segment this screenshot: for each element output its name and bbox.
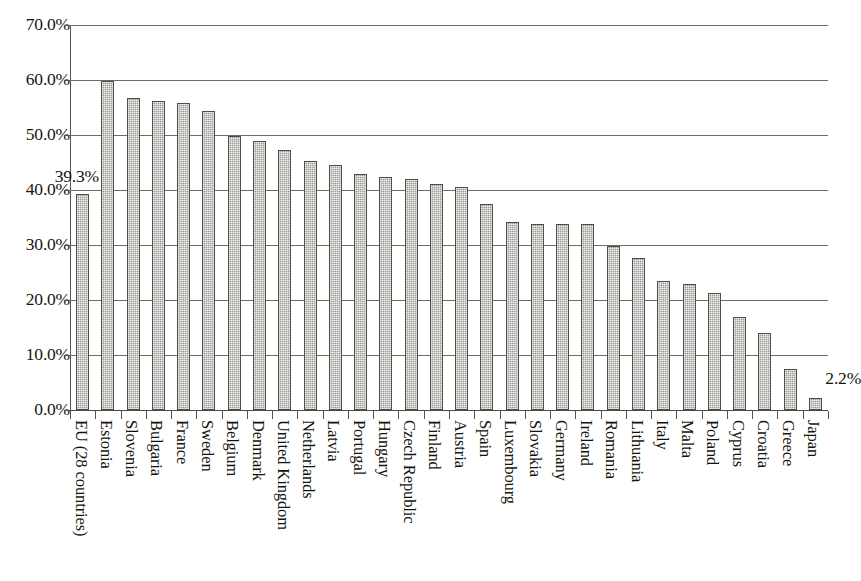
y-tick-label: 20.0% xyxy=(4,291,70,309)
bar xyxy=(202,111,215,410)
x-tick-mark xyxy=(222,411,223,419)
x-tick-mark xyxy=(828,411,829,419)
bar xyxy=(253,141,266,411)
x-axis-category-label: Estonia xyxy=(97,420,114,469)
y-tick-label: 50.0% xyxy=(4,126,70,144)
bar xyxy=(480,204,493,410)
x-axis-category-label: Belgium xyxy=(224,420,241,476)
x-axis-category-label: Malta xyxy=(679,420,696,458)
x-tick-mark xyxy=(676,411,677,419)
x-tick-mark xyxy=(95,411,96,419)
bar xyxy=(278,150,291,410)
bar xyxy=(430,184,443,410)
bar xyxy=(329,165,342,410)
x-axis-category-label: Poland xyxy=(704,420,721,465)
x-axis-category-label: Japan xyxy=(805,420,822,457)
bar xyxy=(809,398,822,410)
x-axis-category-label: Spain xyxy=(476,420,493,457)
bar xyxy=(304,161,317,410)
x-tick-mark xyxy=(575,411,576,419)
x-tick-mark xyxy=(777,411,778,419)
x-tick-mark xyxy=(626,411,627,419)
figure-caption xyxy=(0,573,835,581)
bar xyxy=(531,224,544,410)
x-tick-mark xyxy=(449,411,450,419)
x-tick-mark xyxy=(196,411,197,419)
x-axis-category-label: Sweden xyxy=(198,420,215,472)
bar xyxy=(708,293,721,410)
x-axis-category-label: Bulgaria xyxy=(148,420,165,476)
x-axis-category-label: Slovakia xyxy=(527,420,544,477)
x-tick-mark xyxy=(70,411,71,419)
x-tick-mark xyxy=(702,411,703,419)
x-tick-mark xyxy=(348,411,349,419)
bar xyxy=(758,333,771,410)
data-value-label: 39.3% xyxy=(55,168,99,186)
x-tick-mark xyxy=(803,411,804,419)
bars-layer xyxy=(70,25,828,410)
x-axis-category-label: Latvia xyxy=(325,420,342,462)
x-tick-mark xyxy=(272,411,273,419)
bar xyxy=(683,284,696,411)
bar xyxy=(784,369,797,410)
bar xyxy=(177,103,190,410)
x-tick-mark xyxy=(424,411,425,419)
y-tick-label: 30.0% xyxy=(4,236,70,254)
bar xyxy=(354,174,367,410)
bar xyxy=(152,101,165,410)
y-tick-label: 10.0% xyxy=(4,346,70,364)
bar xyxy=(657,281,670,410)
x-tick-mark xyxy=(171,411,172,419)
x-axis-category-label: Austria xyxy=(451,420,468,468)
y-tick-label: 70.0% xyxy=(4,16,70,34)
x-axis-category-label: Portugal xyxy=(350,420,367,475)
x-tick-mark xyxy=(146,411,147,419)
bar xyxy=(607,246,620,410)
x-axis-ticks xyxy=(70,411,828,420)
x-tick-mark xyxy=(398,411,399,419)
x-tick-mark xyxy=(121,411,122,419)
bar xyxy=(127,98,140,410)
bar xyxy=(733,317,746,410)
x-axis-category-label: Czech Republic xyxy=(401,420,418,524)
x-axis-category-label: Luxembourg xyxy=(502,420,519,504)
x-tick-mark xyxy=(373,411,374,419)
x-axis-category-label: Slovenia xyxy=(123,420,140,477)
y-tick-label: 0.0% xyxy=(4,401,70,419)
x-tick-mark xyxy=(474,411,475,419)
x-axis-category-label: Croatia xyxy=(754,420,771,468)
x-tick-mark xyxy=(323,411,324,419)
x-tick-mark xyxy=(727,411,728,419)
x-axis-category-label: Denmark xyxy=(249,420,266,481)
bar xyxy=(632,258,645,410)
x-axis-category-label: Romania xyxy=(603,420,620,479)
x-axis-category-label: Italy xyxy=(653,420,670,450)
bar xyxy=(581,224,594,410)
x-axis-category-label: EU (28 countries) xyxy=(72,420,89,537)
bar xyxy=(228,136,241,410)
bar xyxy=(556,224,569,410)
x-tick-mark xyxy=(550,411,551,419)
bar xyxy=(379,177,392,410)
bar xyxy=(76,194,89,410)
bar xyxy=(506,222,519,410)
x-axis-category-label: Greece xyxy=(780,420,797,466)
x-tick-mark xyxy=(525,411,526,419)
x-tick-mark xyxy=(601,411,602,419)
x-tick-mark xyxy=(752,411,753,419)
x-tick-mark xyxy=(247,411,248,419)
plot-area xyxy=(70,25,828,410)
bar xyxy=(455,187,468,410)
x-axis-category-label: Cyprus xyxy=(729,420,746,467)
y-axis-labels: 70.0%60.0%50.0%40.0%30.0%20.0%10.0%0.0% xyxy=(0,0,70,581)
x-axis-category-label: Hungary xyxy=(375,420,392,477)
bar xyxy=(101,81,114,410)
y-tick-label: 60.0% xyxy=(4,71,70,89)
x-axis-category-label: Lithuania xyxy=(628,420,645,482)
data-value-label: 2.2% xyxy=(825,370,861,388)
bar xyxy=(405,179,418,410)
x-axis-category-label: Ireland xyxy=(577,420,594,466)
x-axis-category-label: Netherlands xyxy=(300,420,317,499)
x-axis-labels: EU (28 countries)EstoniaSloveniaBulgaria… xyxy=(70,420,828,580)
